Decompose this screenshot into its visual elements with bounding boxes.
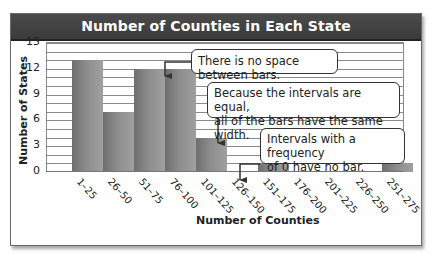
y-tick-label: 15 [20,35,40,48]
histogram-bar [103,112,134,172]
callout-no-space: There is no space between bars. [191,49,338,74]
chart-title-bar: Number of Counties in Each State [11,14,421,41]
histogram-bar [196,138,227,172]
y-axis-label: Number of States [17,56,30,166]
chart-title: Number of Counties in Each State [11,18,421,34]
callout-equal-width: Because the intervals are equal, all of … [207,82,400,118]
histogram-bar [134,69,165,172]
callout-zero-freq-line1: Intervals with a frequency [267,132,398,160]
callout-zero-freq: Intervals with a frequency of 0 have no … [260,128,405,164]
callout-equal-width-line1: Because the intervals are equal, [214,86,393,114]
y-tick-label: 0 [20,164,40,177]
callout-zero-freq-line2: of 0 have no bar. [267,160,398,174]
histogram-bar [165,69,196,172]
histogram-bar [72,60,103,172]
x-axis-label: Number of Counties [196,214,320,227]
gridline [47,43,403,44]
